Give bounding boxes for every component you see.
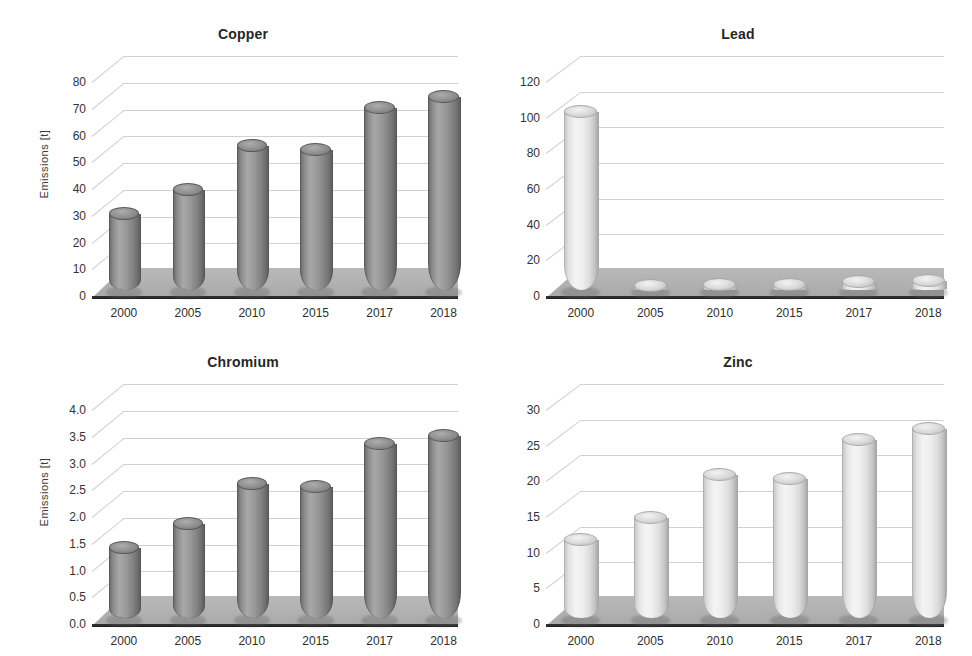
bar-cylinder-top xyxy=(300,143,331,156)
bar-chromium-2005 xyxy=(173,524,204,618)
y-axis-tick-label: 20 xyxy=(527,474,540,488)
bar-cylinder-top xyxy=(912,274,945,287)
x-axis-tick-label: 2017 xyxy=(366,306,393,320)
y-axis-tick-label: 1.5 xyxy=(69,537,86,551)
gridline-riser xyxy=(546,420,581,447)
x-axis-tick-label: 2015 xyxy=(302,634,329,648)
y-axis-label-chromium: Emissions [t] xyxy=(38,458,50,527)
y-axis-tick-label: 10 xyxy=(527,546,540,560)
gridline-horizontal xyxy=(123,464,458,465)
bar-zinc-2010 xyxy=(703,475,736,618)
x-axis-tick-label: 2018 xyxy=(430,306,457,320)
bar-cylinder-body xyxy=(109,548,142,618)
x-axis-tick-label: 2015 xyxy=(776,306,803,320)
y-axis-tick-label: 60 xyxy=(73,129,86,143)
bar-cylinder-body xyxy=(703,475,738,618)
bar-lead-2015 xyxy=(773,285,806,290)
bar-cylinder-top xyxy=(703,278,736,291)
y-axis-tick-label: 0 xyxy=(533,289,540,303)
x-axis-tick-label: 2005 xyxy=(637,306,664,320)
gridline-horizontal xyxy=(580,199,944,200)
gridline-riser xyxy=(92,163,124,190)
gridline-riser xyxy=(92,411,124,438)
bar-chromium-2000 xyxy=(109,548,140,618)
y-axis-tick-label: 0.5 xyxy=(69,590,86,604)
y-axis-tick-label: 3.5 xyxy=(69,430,86,444)
plot-area-lead: 020406080100120200020052010201520172018 xyxy=(546,58,944,298)
gridline-horizontal xyxy=(580,384,944,385)
bar-cylinder-body xyxy=(364,108,397,290)
y-axis-tick-label: 25 xyxy=(527,439,540,453)
bar-cylinder-top xyxy=(912,422,945,435)
bar-cylinder-top xyxy=(428,429,459,442)
bar-cylinder-body xyxy=(912,429,947,618)
x-axis-tick-label: 2010 xyxy=(238,306,265,320)
bar-cylinder-body xyxy=(773,479,808,618)
y-axis-tick-label: 2.5 xyxy=(69,483,86,497)
y-axis-tick-label: 20 xyxy=(73,236,86,250)
bar-cylinder-top xyxy=(564,105,597,118)
chart-panel-lead: Lead 02040608010012020002005201020152017… xyxy=(486,0,972,328)
x-axis-tick-label: 2005 xyxy=(175,634,202,648)
gridline-horizontal xyxy=(123,384,458,385)
bar-cylinder-top xyxy=(300,480,331,493)
gridline-horizontal xyxy=(123,136,458,137)
bar-cylinder-body xyxy=(109,214,142,290)
x-axis-line xyxy=(546,296,944,298)
bar-copper-2018 xyxy=(428,97,459,290)
plot-area-chromium: 0.00.51.01.52.02.53.03.54.02000200520102… xyxy=(92,386,458,626)
bar-zinc-2018 xyxy=(912,429,945,618)
gridline-riser xyxy=(92,56,124,83)
x-axis-tick-label: 2018 xyxy=(430,634,457,648)
bar-lead-2005 xyxy=(634,286,667,290)
bar-cylinder-body xyxy=(173,190,206,290)
bar-lead-2000 xyxy=(564,112,597,290)
floor-plane xyxy=(92,268,458,298)
gridline-riser xyxy=(92,438,124,465)
y-axis-tick-label: 50 xyxy=(73,155,86,169)
gridline-riser xyxy=(92,110,124,137)
y-axis-tick-label: 4.0 xyxy=(69,403,86,417)
bar-cylinder-body xyxy=(237,146,270,290)
y-axis-tick-label: 80 xyxy=(527,146,540,160)
gridline-horizontal xyxy=(123,438,458,439)
y-axis-tick-label: 5 xyxy=(533,581,540,595)
gridline-horizontal xyxy=(580,491,944,492)
bar-zinc-2005 xyxy=(634,518,667,618)
gridline-riser xyxy=(546,455,581,482)
bar-chromium-2018 xyxy=(428,436,459,618)
bar-cylinder-body xyxy=(428,436,461,618)
bar-copper-2017 xyxy=(364,108,395,290)
chart-title-copper: Copper xyxy=(0,26,486,42)
y-axis-tick-label: 2.0 xyxy=(69,510,86,524)
x-axis-tick-label: 2000 xyxy=(111,634,138,648)
gridline-riser xyxy=(92,83,124,110)
x-axis-tick-label: 2000 xyxy=(111,306,138,320)
gridline-horizontal xyxy=(123,491,458,492)
bar-zinc-2017 xyxy=(842,440,875,618)
gridline-horizontal xyxy=(580,420,944,421)
gridline-horizontal xyxy=(580,455,944,456)
bar-zinc-2000 xyxy=(564,540,597,618)
gridline-horizontal xyxy=(123,56,458,57)
x-axis-tick-label: 2017 xyxy=(845,306,872,320)
bar-cylinder-body xyxy=(634,518,669,618)
y-axis-tick-label: 60 xyxy=(527,182,540,196)
gridline-horizontal xyxy=(580,56,944,57)
x-axis-tick-label: 2000 xyxy=(567,634,594,648)
x-axis-line xyxy=(92,624,458,626)
bar-cylinder-top xyxy=(364,101,395,114)
y-axis-tick-label: 40 xyxy=(73,182,86,196)
gridline-horizontal xyxy=(580,163,944,164)
x-axis-tick-label: 2005 xyxy=(175,306,202,320)
y-axis-tick-label: 30 xyxy=(73,209,86,223)
bar-lead-2018 xyxy=(912,281,945,290)
bar-cylinder-body xyxy=(842,440,877,618)
x-axis-tick-label: 2005 xyxy=(637,634,664,648)
chart-title-lead: Lead xyxy=(486,26,972,42)
bar-copper-2015 xyxy=(300,150,331,290)
y-axis-tick-label: 10 xyxy=(73,262,86,276)
y-axis-tick-label: 0 xyxy=(79,289,86,303)
x-axis-tick-label: 2017 xyxy=(366,634,393,648)
gridline-riser xyxy=(546,56,581,83)
